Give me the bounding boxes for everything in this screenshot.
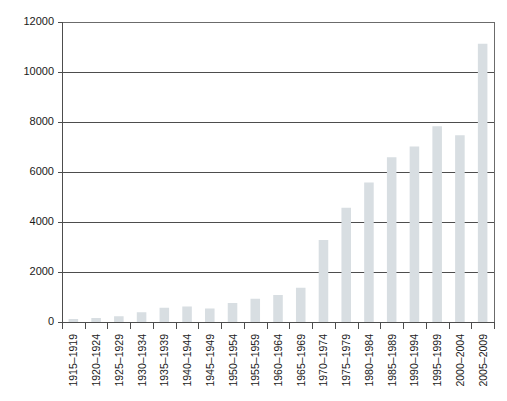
x-tick-label-2000–2004: 2000–2004 — [454, 334, 466, 387]
bar-1965–1969 — [296, 288, 306, 322]
x-tick-label-1930–1934: 1930–1934 — [136, 334, 148, 387]
y-tick-label-6000: 6000 — [30, 165, 54, 177]
x-tick-label-1935–1939: 1935–1939 — [158, 334, 170, 387]
bar-1915–1919 — [69, 319, 79, 322]
y-tick-label-12000: 12000 — [23, 15, 54, 27]
chart-svg: 020004000600080001000012000 1915–1919192… — [0, 0, 507, 401]
gridlines-group — [62, 23, 494, 323]
y-axis-group: 020004000600080001000012000 — [23, 15, 62, 327]
x-tick-label-1990–1994: 1990–1994 — [408, 334, 420, 387]
y-tick-label-2000: 2000 — [30, 265, 54, 277]
x-tick-label-1925–1929: 1925–1929 — [113, 334, 125, 387]
x-tick-label-1975–1979: 1975–1979 — [340, 334, 352, 387]
bar-2005–2009 — [478, 44, 488, 322]
bar-1920–1924 — [91, 318, 101, 322]
x-tick-label-1995–1999: 1995–1999 — [431, 334, 443, 387]
bar-1945–1949 — [205, 309, 215, 323]
x-tick-label-1985–1989: 1985–1989 — [386, 334, 398, 387]
bar-1950–1954 — [228, 303, 238, 322]
x-axis-group: 1915–19191920–19241925–19291930–19341935… — [62, 323, 495, 387]
bar-1960–1964 — [273, 295, 283, 322]
x-tick-label-1920–1924: 1920–1924 — [90, 334, 102, 387]
y-tick-label-10000: 10000 — [23, 65, 54, 77]
x-tick-label-1960–1964: 1960–1964 — [272, 334, 284, 387]
bar-1955–1959 — [250, 299, 260, 322]
bar-2000–2004 — [455, 135, 465, 322]
y-tick-label-8000: 8000 — [30, 115, 54, 127]
bar-1925–1929 — [114, 316, 124, 322]
x-tick-label-1945–1949: 1945–1949 — [204, 334, 216, 387]
y-tick-label-4000: 4000 — [30, 215, 54, 227]
y-tick-label-0: 0 — [48, 315, 54, 327]
x-tick-label-1940–1944: 1940–1944 — [181, 334, 193, 387]
bar-1940–1944 — [182, 307, 192, 323]
bar-1985–1989 — [387, 157, 397, 322]
bar-1975–1979 — [341, 208, 351, 322]
bar-chart-figure: 020004000600080001000012000 1915–1919192… — [0, 0, 507, 401]
bar-1935–1939 — [160, 308, 170, 322]
bar-1970–1974 — [319, 240, 329, 322]
x-tick-label-1965–1969: 1965–1969 — [295, 334, 307, 387]
x-tick-label-1970–1974: 1970–1974 — [317, 334, 329, 387]
bars-group — [69, 44, 488, 322]
x-tick-label-1915–1919: 1915–1919 — [67, 334, 79, 387]
x-tick-label-1980–1984: 1980–1984 — [363, 334, 375, 387]
x-tick-label-1955–1959: 1955–1959 — [249, 334, 261, 387]
bar-1995–1999 — [432, 126, 442, 322]
x-tick-label-1950–1954: 1950–1954 — [227, 334, 239, 387]
x-tick-label-2005–2009: 2005–2009 — [477, 334, 489, 387]
bar-1990–1994 — [410, 147, 420, 323]
bar-1980–1984 — [364, 183, 374, 323]
bar-1930–1934 — [137, 312, 147, 322]
